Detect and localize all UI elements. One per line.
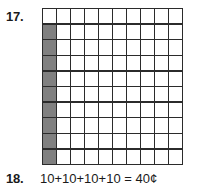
grid-cell[interactable] bbox=[127, 56, 140, 70]
grid-cell[interactable] bbox=[57, 87, 70, 101]
grid-cell[interactable] bbox=[57, 103, 70, 117]
grid-cell[interactable] bbox=[127, 25, 140, 39]
grid-cell[interactable] bbox=[113, 72, 126, 86]
grid-cell[interactable] bbox=[169, 72, 182, 86]
grid-cell[interactable] bbox=[71, 9, 84, 23]
grid-cell[interactable] bbox=[127, 150, 140, 164]
grid-cell[interactable] bbox=[85, 87, 98, 101]
grid-cell[interactable] bbox=[85, 118, 98, 132]
grid-cell[interactable] bbox=[141, 118, 154, 132]
grid-cell[interactable] bbox=[141, 56, 154, 70]
grid-cell[interactable] bbox=[99, 9, 112, 23]
grid-cell[interactable] bbox=[99, 103, 112, 117]
grid-cell[interactable] bbox=[71, 134, 84, 148]
grid-cell[interactable] bbox=[99, 72, 112, 86]
grid-cell[interactable] bbox=[57, 56, 70, 70]
grid-cell[interactable] bbox=[155, 40, 168, 54]
grid-cell[interactable] bbox=[71, 103, 84, 117]
grid-cell[interactable] bbox=[113, 150, 126, 164]
grid-cell[interactable] bbox=[169, 118, 182, 132]
grid-cell[interactable] bbox=[57, 9, 70, 23]
grid-cell[interactable] bbox=[141, 134, 154, 148]
grid-cell[interactable] bbox=[155, 103, 168, 117]
grid-cell[interactable] bbox=[71, 150, 84, 164]
grid-cell[interactable] bbox=[43, 118, 56, 132]
grid-cell[interactable] bbox=[71, 87, 84, 101]
grid-cell[interactable] bbox=[43, 150, 56, 164]
grid-cell[interactable] bbox=[155, 72, 168, 86]
grid-cell[interactable] bbox=[57, 134, 70, 148]
grid-cell[interactable] bbox=[99, 56, 112, 70]
grid-cell[interactable] bbox=[141, 87, 154, 101]
grid-cell[interactable] bbox=[43, 56, 56, 70]
grid-cell[interactable] bbox=[99, 40, 112, 54]
grid-cell[interactable] bbox=[113, 87, 126, 101]
grid-cell[interactable] bbox=[155, 118, 168, 132]
grid-cell[interactable] bbox=[43, 87, 56, 101]
grid-cell[interactable] bbox=[127, 40, 140, 54]
grid-cell[interactable] bbox=[169, 87, 182, 101]
grid-cell[interactable] bbox=[127, 9, 140, 23]
grid-cell[interactable] bbox=[141, 150, 154, 164]
grid-cell[interactable] bbox=[141, 25, 154, 39]
grid-cell[interactable] bbox=[71, 72, 84, 86]
grid-cell[interactable] bbox=[43, 9, 56, 23]
grid-cell[interactable] bbox=[85, 40, 98, 54]
grid-cell[interactable] bbox=[113, 118, 126, 132]
grid-cell[interactable] bbox=[99, 134, 112, 148]
grid-cell[interactable] bbox=[85, 25, 98, 39]
grid-cell[interactable] bbox=[169, 40, 182, 54]
grid-cell[interactable] bbox=[141, 9, 154, 23]
grid-cell[interactable] bbox=[43, 134, 56, 148]
grid-cell[interactable] bbox=[43, 25, 56, 39]
grid-cell[interactable] bbox=[57, 40, 70, 54]
grid-cell[interactable] bbox=[141, 40, 154, 54]
grid-cell[interactable] bbox=[99, 87, 112, 101]
grid-cell[interactable] bbox=[169, 134, 182, 148]
grid-cell[interactable] bbox=[57, 118, 70, 132]
grid-cell[interactable] bbox=[169, 103, 182, 117]
grid-cell[interactable] bbox=[71, 56, 84, 70]
grid-cell[interactable] bbox=[155, 25, 168, 39]
grid-cell[interactable] bbox=[155, 87, 168, 101]
grid-cell[interactable] bbox=[85, 9, 98, 23]
grid-cell[interactable] bbox=[127, 87, 140, 101]
grid-cell[interactable] bbox=[113, 9, 126, 23]
grid-cell[interactable] bbox=[43, 72, 56, 86]
grid-cell[interactable] bbox=[127, 118, 140, 132]
grid-cell[interactable] bbox=[57, 25, 70, 39]
grid-cell[interactable] bbox=[169, 150, 182, 164]
grid-cell[interactable] bbox=[99, 25, 112, 39]
grid-cell[interactable] bbox=[155, 9, 168, 23]
grid-cell[interactable] bbox=[99, 150, 112, 164]
grid-cell[interactable] bbox=[113, 40, 126, 54]
grid-cell[interactable] bbox=[57, 150, 70, 164]
grid-cell[interactable] bbox=[169, 56, 182, 70]
grid-cell[interactable] bbox=[127, 103, 140, 117]
grid-cell[interactable] bbox=[155, 134, 168, 148]
grid-cell[interactable] bbox=[169, 25, 182, 39]
grid-cell[interactable] bbox=[155, 56, 168, 70]
grid-cell[interactable] bbox=[127, 72, 140, 86]
grid-cell[interactable] bbox=[71, 118, 84, 132]
grid-cell[interactable] bbox=[113, 103, 126, 117]
grid-cell[interactable] bbox=[85, 103, 98, 117]
grid-cell[interactable] bbox=[141, 72, 154, 86]
grid-cell[interactable] bbox=[141, 103, 154, 117]
grid-cell[interactable] bbox=[113, 134, 126, 148]
grid-cell[interactable] bbox=[113, 56, 126, 70]
grid-cell[interactable] bbox=[169, 9, 182, 23]
grid-cell[interactable] bbox=[71, 25, 84, 39]
grid-cell[interactable] bbox=[57, 72, 70, 86]
grid-cell[interactable] bbox=[85, 134, 98, 148]
grid-cell[interactable] bbox=[85, 56, 98, 70]
grid-cell[interactable] bbox=[43, 40, 56, 54]
grid-cell[interactable] bbox=[113, 25, 126, 39]
grid-cell[interactable] bbox=[155, 150, 168, 164]
grid-cell[interactable] bbox=[99, 118, 112, 132]
grid-cell[interactable] bbox=[85, 72, 98, 86]
grid-cell[interactable] bbox=[43, 103, 56, 117]
hundreds-grid[interactable] bbox=[42, 8, 183, 165]
grid-cell[interactable] bbox=[71, 40, 84, 54]
grid-cell[interactable] bbox=[85, 150, 98, 164]
